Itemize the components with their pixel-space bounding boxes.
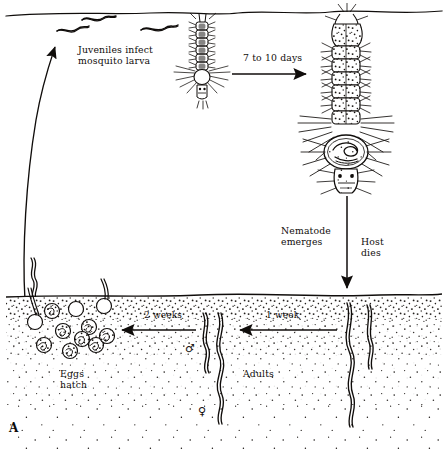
label-eggs-hatch: Eggs hatch xyxy=(60,368,87,391)
mosquito-larva-infected xyxy=(298,3,394,194)
water-surface-line xyxy=(6,11,442,16)
label-juveniles-infect: Juveniles infect mosquito larva xyxy=(78,44,153,67)
female-symbol: ♀ xyxy=(198,405,206,418)
label-2-weeks: 2 weeks xyxy=(144,310,182,321)
life-cycle-figure: Juveniles infect mosquito larva 7 to 10 … xyxy=(0,0,448,456)
label-1-week: 1 week xyxy=(266,310,299,321)
male-symbol: ♂ xyxy=(185,342,195,355)
panel-label: A xyxy=(9,421,18,435)
mosquito-larva-uninfected xyxy=(174,13,230,109)
label-adults: Adults xyxy=(243,368,274,379)
label-7-to-10-days: 7 to 10 days xyxy=(243,52,302,63)
label-nematode-emerges: Nematode emerges xyxy=(281,225,331,248)
juvenile-nematodes-water xyxy=(57,16,178,32)
label-host-dies: Host dies xyxy=(361,236,384,259)
cycle-return-arrow xyxy=(24,47,55,301)
